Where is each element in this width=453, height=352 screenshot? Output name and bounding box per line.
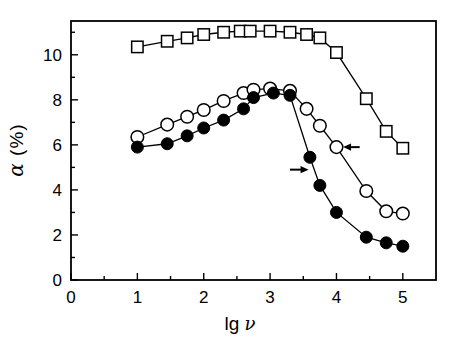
open-circle-marker — [397, 207, 410, 220]
open-circle-marker — [161, 118, 174, 131]
open-square-marker — [264, 25, 275, 36]
filled-circle-marker — [238, 103, 250, 115]
x-tick-label: 3 — [265, 288, 274, 307]
open-square-marker — [361, 93, 372, 104]
y-tick-label: 10 — [43, 46, 62, 65]
open-square-marker — [162, 36, 173, 47]
y-tick-label: 6 — [53, 136, 62, 155]
open-circle-marker — [380, 205, 393, 218]
filled-circle-marker — [131, 141, 143, 153]
open-circle-marker — [197, 104, 210, 117]
open-square-marker — [381, 126, 392, 137]
filled-circle-marker — [330, 206, 342, 218]
open-circle-marker — [217, 95, 230, 108]
open-square-marker — [397, 143, 408, 154]
open-square-marker — [284, 27, 295, 38]
open-square-marker — [301, 29, 312, 40]
open-circle-marker — [300, 103, 313, 116]
page: { "figure": { "background": "#ffffff", "… — [0, 0, 453, 352]
x-axis-label: lg ν — [224, 313, 255, 335]
filled-circle-marker — [267, 87, 279, 99]
right-arrow-icon — [290, 166, 309, 173]
filled-circle-marker — [181, 130, 193, 142]
tick-labels: 0123450246810 — [43, 46, 407, 307]
x-tick-label: 5 — [398, 288, 407, 307]
series-filled-circles — [131, 87, 408, 252]
filled-circle-marker — [397, 240, 409, 252]
left-arrow-icon — [343, 144, 360, 151]
open-circle-marker — [330, 141, 343, 154]
axis-ticks — [71, 32, 403, 280]
filled-circle-marker — [314, 179, 326, 191]
filled-circle-marker — [198, 122, 210, 134]
chart-canvas: 0123450246810 — [0, 0, 453, 352]
x-axis-prefix: lg — [224, 313, 244, 334]
x-tick-label: 0 — [66, 288, 75, 307]
open-square-marker — [198, 29, 209, 40]
filled-circle-marker — [218, 114, 230, 126]
y-tick-label: 0 — [53, 271, 62, 290]
nu-symbol: ν — [245, 313, 256, 334]
filled-circle-marker — [284, 89, 296, 101]
y-tick-label: 8 — [53, 91, 62, 110]
x-tick-label: 4 — [332, 288, 341, 307]
open-square-marker — [244, 25, 255, 36]
x-tick-label: 1 — [133, 288, 142, 307]
filled-circle-marker — [161, 138, 173, 150]
x-tick-label: 2 — [199, 288, 208, 307]
open-square-marker — [181, 32, 192, 43]
open-square-marker — [218, 27, 229, 38]
open-square-marker — [331, 47, 342, 58]
open-circle-marker — [360, 185, 373, 198]
scientific-figure: 0123450246810 α (%) lg ν — [0, 0, 453, 352]
y-axis-unit: (%) — [6, 123, 27, 162]
filled-circle-marker — [380, 237, 392, 249]
y-tick-label: 2 — [53, 226, 62, 245]
open-square-marker — [132, 41, 143, 52]
open-circle-marker — [314, 119, 327, 132]
alpha-symbol: α — [4, 162, 28, 177]
filled-circle-marker — [360, 231, 372, 243]
filled-circle-marker — [304, 151, 316, 163]
open-square-marker — [314, 32, 325, 43]
y-axis-label: α (%) — [4, 123, 28, 176]
y-tick-label: 4 — [53, 181, 62, 200]
filled-circle-marker — [248, 92, 260, 104]
series-line-filled-circles — [137, 93, 402, 246]
open-circle-marker — [181, 110, 194, 123]
